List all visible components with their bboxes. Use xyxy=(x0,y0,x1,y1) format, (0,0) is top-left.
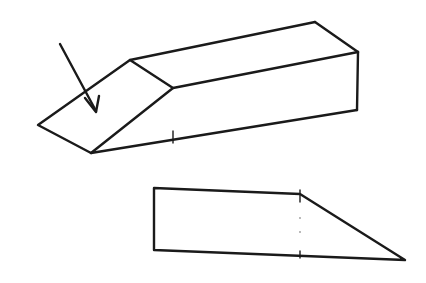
slanted-face xyxy=(38,60,173,153)
divider-dot xyxy=(299,231,301,233)
side-profile-outline xyxy=(154,188,405,260)
front-top-edge xyxy=(173,52,358,88)
perspective-view xyxy=(38,22,358,153)
top-back-edge xyxy=(130,22,315,60)
wedge-sketch-figure xyxy=(0,0,426,283)
divider-dot xyxy=(299,217,301,219)
top-right-edge xyxy=(315,22,358,52)
side-view xyxy=(154,188,405,260)
arrow-shaft xyxy=(60,44,96,111)
front-right-edge xyxy=(357,52,358,110)
bottom-edge xyxy=(91,110,357,153)
